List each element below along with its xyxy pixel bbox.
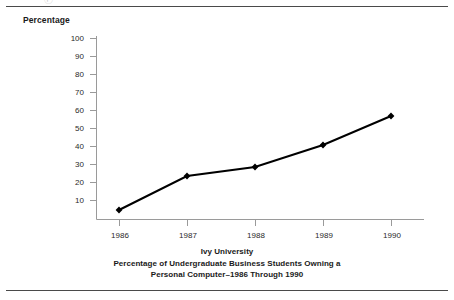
y-tick-label-60: 60: [56, 107, 84, 115]
data-point-1987: [184, 173, 191, 180]
chart-caption: Ivy University Percentage of Undergradua…: [0, 246, 454, 281]
y-tick-label-90: 90: [56, 53, 84, 61]
y-axis-ticks: [90, 39, 97, 201]
data-point-1988: [252, 164, 259, 171]
data-point-1986: [116, 207, 123, 214]
x-tick-label-1988: 1988: [236, 232, 276, 240]
caption-line-1: Ivy University: [0, 246, 454, 258]
x-axis-ticks: [120, 220, 392, 227]
x-tick-label-1989: 1989: [304, 232, 344, 240]
y-tick-label-20: 20: [56, 179, 84, 187]
data-markers: [116, 113, 395, 214]
data-point-1990: [388, 113, 395, 120]
y-tick-label-10: 10: [56, 197, 84, 205]
caption-line-2: Percentage of Undergraduate Business Stu…: [0, 258, 454, 270]
y-tick-label-70: 70: [56, 89, 84, 97]
x-tick-label-1986: 1986: [100, 232, 140, 240]
data-point-1989: [320, 142, 327, 149]
figure-chart-percentage-pc-ownership: Ⓕ ▫ Percentage: [0, 0, 454, 300]
y-tick-label-100: 100: [56, 35, 84, 43]
y-tick-label-80: 80: [56, 71, 84, 79]
caption-line-3: Personal Computer–1986 Through 1990: [0, 269, 454, 281]
x-tick-label-1990: 1990: [372, 232, 412, 240]
y-tick-label-50: 50: [56, 125, 84, 133]
data-line-series: [119, 116, 391, 210]
y-tick-label-30: 30: [56, 161, 84, 169]
y-tick-label-40: 40: [56, 143, 84, 151]
x-tick-label-1987: 1987: [168, 232, 208, 240]
